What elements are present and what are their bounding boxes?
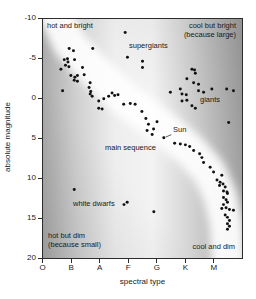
star-dot-supergiants	[91, 47, 94, 50]
star-dot-supergiants	[124, 31, 127, 34]
star-dot-giants	[227, 121, 230, 124]
star-dot-giants	[197, 89, 200, 92]
star-dot-giants	[192, 81, 195, 84]
annotation-white-dwarfs: white dwarfs	[73, 200, 115, 209]
star-dot-main-sequence-lower-k-m	[226, 201, 229, 204]
star-dot-white-dwarfs	[126, 201, 129, 204]
star-dot-main-sequence-lower-k-m	[173, 142, 176, 145]
star-dot-giants	[194, 107, 197, 110]
star-dot-supergiants	[126, 56, 129, 59]
x-tick-label: K	[175, 263, 195, 273]
star-dot-main-sequence-middle-a-f-g	[146, 129, 149, 132]
star-dot-main-sequence-lower-k-m	[225, 206, 228, 209]
y-tick-mark	[38, 218, 42, 219]
annotation-hot-and-bright: hot and bright	[47, 22, 93, 31]
star-dot-main-sequence-upper-o-b-a	[73, 58, 76, 61]
star-dot-sun	[162, 136, 165, 139]
star-dot-giants	[190, 68, 193, 71]
star-dot-main-sequence-middle-a-f-g	[129, 102, 132, 105]
star-dot-main-sequence-upper-o-b-a	[91, 95, 94, 98]
annotation-cool-and-dim: cool and dim	[192, 243, 235, 252]
y-tick-label: -10	[18, 13, 36, 23]
annotation-hot-but-dim-line2: (because small)	[48, 241, 101, 250]
star-dot-giants	[190, 104, 193, 107]
star-dot-main-sequence-lower-k-m	[179, 143, 182, 146]
star-dot-main-sequence-upper-o-b-a	[89, 81, 92, 84]
star-dot-main-sequence-lower-k-m	[226, 216, 229, 219]
star-dot-main-sequence-lower-k-m	[220, 207, 223, 210]
star-dot-main-sequence-lower-k-m	[184, 143, 187, 146]
star-dot-main-sequence-upper-o-b-a	[61, 89, 64, 92]
star-dot-main-sequence-middle-a-f-g	[144, 117, 147, 120]
star-dot-main-sequence-middle-a-f-g	[107, 95, 110, 98]
star-dot-main-sequence-lower-k-m	[219, 181, 222, 184]
y-tick-mark	[38, 138, 42, 139]
star-dot-main-sequence-upper-o-b-a	[89, 90, 92, 93]
star-dot-main-sequence-lower-k-m	[222, 190, 225, 193]
star-dot-main-sequence-upper-o-b-a	[63, 58, 66, 61]
scatter-canvas	[43, 19, 242, 258]
star-dot-main-sequence-upper-o-b-a	[76, 80, 79, 83]
star-dot-main-sequence-middle-a-f-g	[147, 123, 150, 126]
x-tick-label: B	[61, 263, 81, 273]
star-dot-main-sequence-lower-k-m	[209, 166, 212, 169]
y-tick-mark	[38, 58, 42, 59]
y-tick-label: 20	[18, 253, 36, 263]
y-tick-label: 0	[18, 93, 36, 103]
star-dot-giants	[194, 72, 197, 75]
star-dot-main-sequence-middle-a-f-g	[97, 107, 100, 110]
y-tick-mark	[38, 98, 42, 99]
star-dot-main-sequence-middle-a-f-g	[156, 120, 159, 123]
annotation-cool-but-bright: cool but bright (because large)	[184, 22, 236, 39]
star-dot-giants	[193, 68, 196, 71]
star-dot-main-sequence-lower-k-m	[198, 152, 201, 155]
star-dot-main-sequence-lower-k-m	[222, 182, 225, 185]
star-dot-main-sequence-lower-k-m	[228, 225, 231, 228]
y-axis-title: absolute magnitude	[3, 22, 15, 252]
annotation-hot-but-dim: hot but dim (because small)	[48, 232, 101, 249]
annotation-supergiants: supergiants	[129, 42, 168, 51]
y-tick-mark	[38, 178, 42, 179]
star-dot-main-sequence-lower-k-m	[212, 170, 215, 173]
star-dot-main-sequence-lower-k-m	[228, 208, 231, 211]
star-dot-main-sequence-middle-a-f-g	[97, 100, 100, 103]
star-dot-main-sequence-upper-o-b-a	[68, 47, 71, 50]
star-dot-main-sequence-upper-o-b-a	[59, 68, 62, 71]
x-axis-title: spectral type	[42, 277, 243, 286]
hr-diagram-figure: absolute magnitude	[0, 0, 256, 299]
star-dot-main-sequence-upper-o-b-a	[76, 74, 79, 77]
star-dot-white-dwarfs	[73, 188, 76, 191]
y-tick-mark	[38, 18, 42, 19]
star-dot-main-sequence-middle-a-f-g	[152, 127, 155, 130]
y-tick-label: 15	[18, 213, 36, 223]
star-dot-giants	[179, 88, 182, 91]
star-dot-main-sequence-middle-a-f-g	[151, 133, 154, 136]
annotation-sun: Sun	[173, 126, 186, 135]
star-dot-giants	[185, 77, 188, 80]
x-tick-label: G	[147, 263, 167, 273]
star-dot-main-sequence-upper-o-b-a	[81, 66, 84, 69]
star-dot-main-sequence-middle-a-f-g	[102, 97, 105, 100]
star-dot-giants	[181, 100, 184, 103]
star-dot-main-sequence-upper-o-b-a	[67, 65, 70, 68]
x-tick-label: O	[33, 263, 53, 273]
star-dot-giants	[210, 88, 213, 91]
y-tick-label: 10	[18, 173, 36, 183]
annotation-giants: giants	[200, 96, 220, 105]
star-dot-main-sequence-lower-k-m	[220, 174, 223, 177]
star-dot-main-sequence-lower-k-m	[216, 178, 219, 181]
star-dot-main-sequence-upper-o-b-a	[73, 76, 76, 79]
star-dot-main-sequence-upper-o-b-a	[66, 57, 69, 60]
star-dot-main-sequence-upper-o-b-a	[69, 74, 72, 77]
star-dot-main-sequence-middle-a-f-g	[117, 93, 120, 96]
star-dot-giants	[202, 91, 205, 94]
star-dot-main-sequence-lower-k-m	[202, 161, 205, 164]
star-dot-giants	[232, 89, 235, 92]
annotation-cool-but-bright-line2: (because large)	[184, 31, 236, 40]
x-tick-label: A	[90, 263, 110, 273]
star-dot-supergiants	[141, 60, 144, 63]
star-dot-main-sequence-upper-o-b-a	[83, 73, 86, 76]
plot-area: hot and bright cool but bright (because …	[42, 18, 243, 259]
star-dot-main-sequence-lower-k-m	[226, 228, 229, 231]
star-dot-supergiants	[141, 66, 144, 69]
